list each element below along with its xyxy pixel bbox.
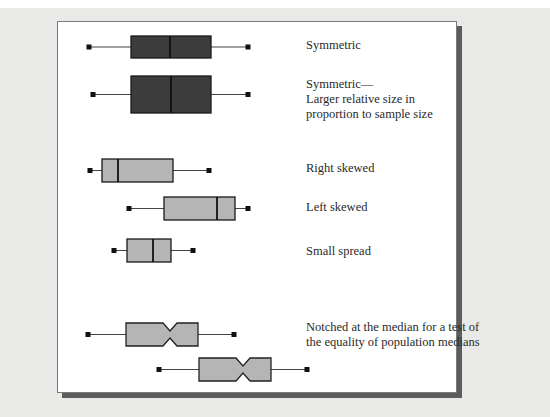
min-marker <box>87 45 92 50</box>
box <box>164 197 235 220</box>
max-marker <box>246 45 251 50</box>
box <box>127 239 171 262</box>
box-label: Notched at the median for a test of the … <box>306 320 480 350</box>
box-label: Symmetric <box>306 38 361 53</box>
max-marker <box>191 248 196 253</box>
min-marker <box>127 206 132 211</box>
notched-box <box>126 323 198 346</box>
boxplot-canvas <box>0 0 550 417</box>
max-marker <box>246 92 251 97</box>
box-label: Small spread <box>306 244 371 259</box>
notched-box <box>199 358 271 381</box>
min-marker <box>88 168 93 173</box>
box <box>102 159 173 182</box>
max-marker <box>207 168 212 173</box>
min-marker <box>112 248 117 253</box>
box <box>131 36 211 58</box>
max-marker <box>232 332 237 337</box>
min-marker <box>157 367 162 372</box>
max-marker <box>246 206 251 211</box>
boxplot <box>88 159 212 182</box>
max-marker <box>305 367 310 372</box>
boxplot <box>127 197 251 220</box>
boxplot <box>87 36 251 58</box>
min-marker <box>86 332 91 337</box>
boxplot <box>91 76 251 113</box>
min-marker <box>91 92 96 97</box>
boxplot <box>157 358 310 381</box>
box-label: Left skewed <box>306 200 367 215</box>
box-label: Right skewed <box>306 161 374 176</box>
boxplot <box>86 323 237 346</box>
boxplot <box>112 239 196 262</box>
box-label: Symmetric— Larger relative size in propo… <box>306 77 433 122</box>
